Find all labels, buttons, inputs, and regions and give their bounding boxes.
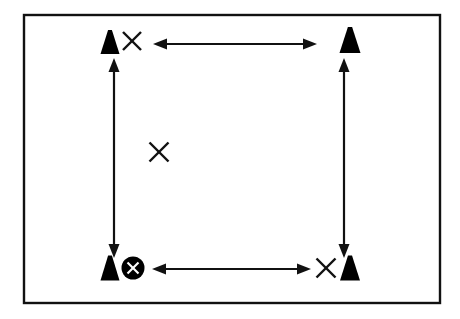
boundary-frame [24, 15, 440, 303]
survey-layout-diagram [0, 0, 460, 319]
station-marker-group [122, 257, 145, 280]
diagram-canvas [0, 0, 460, 319]
station-marker-circled-x [122, 257, 145, 280]
